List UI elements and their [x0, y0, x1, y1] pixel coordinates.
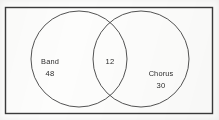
intersection-count: 12 — [106, 58, 115, 66]
chorus-only-count: 30 — [157, 82, 166, 90]
venn-diagram-figure: Band 48 12 Chorus 30 — [0, 0, 219, 120]
band-label: Band — [41, 58, 59, 65]
band-only-count: 48 — [46, 70, 55, 78]
chorus-label: Chorus — [149, 70, 174, 77]
